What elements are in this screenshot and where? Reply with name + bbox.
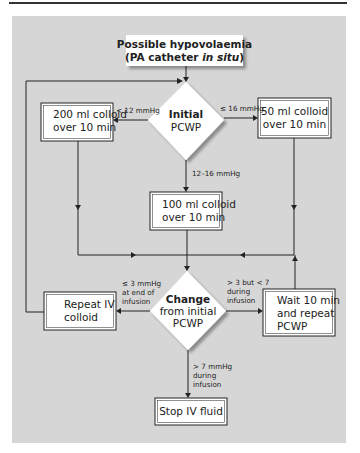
svg-text:Stop IV fluid: Stop IV fluid: [159, 405, 223, 417]
label-gt7-line2: during: [193, 371, 216, 380]
label-gt3lt7-line2: during: [227, 287, 250, 296]
label-le3-line2: at end of: [122, 288, 155, 297]
svg-text:PCWP: PCWP: [173, 317, 203, 329]
svg-text:Repeat IV: Repeat IV: [64, 298, 115, 310]
start-box: Possible hypovolaemia (PA catheter in si…: [117, 35, 252, 66]
start-line1: Possible hypovolaemia: [117, 38, 252, 50]
box-200ml-colloid: 200 ml colloid over 10 min: [41, 103, 127, 141]
svg-text:Wait 10 min: Wait 10 min: [277, 294, 340, 306]
svg-text:over 10 min: over 10 min: [263, 118, 326, 130]
label-le16: ≤ 16 mmHg: [220, 104, 264, 113]
svg-text:colloid: colloid: [64, 311, 98, 323]
change-pcwp-decision: Change from initial PCWP: [150, 271, 226, 350]
svg-text:and repeat: and repeat: [277, 307, 334, 319]
svg-text:50 ml colloid: 50 ml colloid: [261, 105, 328, 117]
svg-text:from initial: from initial: [160, 305, 217, 317]
label-gt3lt7-line1: > 3 but < 7: [227, 278, 269, 287]
svg-text:PCWP: PCWP: [171, 121, 201, 133]
svg-text:Initial: Initial: [169, 108, 203, 120]
label-le3-line3: infusion: [122, 297, 150, 306]
label-12-16: 12–16 mmHg: [192, 169, 240, 178]
svg-text:100 ml colloid: 100 ml colloid: [162, 198, 236, 210]
label-gt3lt7-line3: infusion: [227, 296, 255, 305]
label-gt7-line3: infusion: [193, 380, 221, 389]
box-50ml-colloid: 50 ml colloid over 10 min: [258, 98, 331, 138]
svg-text:over 10 min: over 10 min: [162, 211, 225, 223]
label-gt7-line1: > 7 mmHg: [193, 362, 232, 371]
box-wait-repeat-pcwp: Wait 10 min and repeat PCWP: [263, 289, 340, 336]
svg-text:Change: Change: [166, 293, 210, 305]
svg-text:PCWP: PCWP: [277, 320, 307, 332]
start-line2: (PA catheter in situ): [125, 51, 244, 63]
flowchart: Possible hypovolaemia (PA catheter in si…: [0, 0, 360, 453]
box-repeat-iv-colloid: Repeat IV colloid: [44, 292, 116, 330]
label-lt12: < 12 mmHg: [116, 106, 160, 115]
box-100ml-colloid: 100 ml colloid over 10 min: [150, 192, 236, 230]
label-le3-line1: ≤ 3 mmHg: [122, 279, 161, 288]
initial-pcwp-decision: Initial PCWP: [148, 82, 224, 160]
svg-text:over 10 min: over 10 min: [53, 121, 116, 133]
box-stop-iv-fluid: Stop IV fluid: [155, 398, 227, 425]
